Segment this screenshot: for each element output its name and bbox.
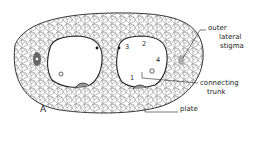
number-1: 1: [130, 74, 134, 82]
outer-lateral-stigma: [178, 55, 184, 65]
label-plate: plate: [180, 106, 198, 113]
label-stigma: stigma: [220, 43, 244, 50]
label-connecting: connecting: [200, 80, 239, 87]
number-4: 4: [156, 56, 160, 64]
left-chamber: [48, 36, 103, 87]
label-outer: outer: [208, 25, 227, 32]
label-lateral: lateral: [219, 34, 241, 41]
label-trunk: trunk: [207, 89, 226, 96]
outer-body: [14, 13, 203, 113]
panel-label: A: [40, 104, 46, 114]
number-2: 2: [142, 40, 146, 48]
diagram-drawing: [0, 0, 264, 145]
number-3: 3: [125, 43, 129, 51]
